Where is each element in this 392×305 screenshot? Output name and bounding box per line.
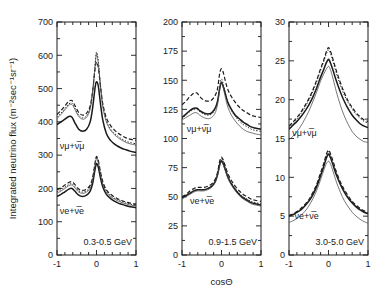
y-tick-label: 150 bbox=[163, 76, 178, 86]
annotation-numu-plus-antinumu: νμ+ν̅μ bbox=[60, 141, 85, 151]
annotation-numu-plus-antinumu: νμ+ν̅μ bbox=[292, 128, 317, 138]
x-tick-label: 0 bbox=[94, 259, 99, 269]
curve-numu-plus-antinumu-dashed bbox=[182, 69, 261, 118]
x-tick-label: 0 bbox=[219, 259, 224, 269]
y-tick-label: 400 bbox=[38, 117, 53, 127]
annotation-nue-plus-antinue: νe+ν̅e bbox=[60, 206, 84, 216]
y-tick-label: 125 bbox=[163, 105, 178, 115]
annotation-numu-plus-antinumu: νμ+ν̅μ bbox=[187, 124, 212, 134]
x-axis-title: cosΘ bbox=[210, 276, 232, 287]
x-tick-label: 1 bbox=[365, 259, 370, 269]
curves-group bbox=[57, 52, 136, 208]
y-tick-label: 100 bbox=[163, 134, 178, 144]
panel-left: 0100200300400500600700-101νμ+ν̅μνe+ν̅e0.… bbox=[38, 17, 139, 269]
y-tick-label: 5 bbox=[280, 211, 285, 221]
panel-right: 051015202530-101νμ+ν̅μνe+ν̅e3.0-5.0 GeV bbox=[275, 17, 371, 269]
x-tick-label: -1 bbox=[53, 259, 61, 269]
y-tick-label: 200 bbox=[163, 17, 178, 27]
panel-middle: 0255075100125150175200-101νμ+ν̅μνe+ν̅e0.… bbox=[163, 17, 264, 269]
energy-range-label: 0.3-0.5 GeV bbox=[83, 237, 132, 247]
plot-canvas: 0100200300400500600700-101νμ+ν̅μνe+ν̅e0.… bbox=[0, 0, 392, 305]
y-tick-label: 700 bbox=[38, 17, 53, 27]
y-tick-label: 75 bbox=[168, 163, 178, 173]
x-tick-label: 1 bbox=[258, 259, 263, 269]
energy-range-label: 3.0-5.0 GeV bbox=[315, 237, 364, 247]
curve-numu-plus-antinumu-dotted bbox=[57, 52, 136, 144]
y-axis-title: Integrated neutrino flux (m⁻²sec⁻¹sr⁻¹) bbox=[7, 58, 18, 219]
y-tick-label: 25 bbox=[275, 56, 285, 66]
x-tick-label: 0 bbox=[326, 259, 331, 269]
y-tick-label: 200 bbox=[38, 184, 53, 194]
curve-numu-plus-antinumu-thin bbox=[57, 54, 136, 145]
y-tick-label: 10 bbox=[275, 173, 285, 183]
axis-frame bbox=[182, 22, 261, 255]
y-tick-label: 175 bbox=[163, 46, 178, 56]
y-tick-label: 600 bbox=[38, 51, 53, 61]
x-tick-label: -1 bbox=[178, 259, 186, 269]
neutrino-flux-figure: 0100200300400500600700-101νμ+ν̅μνe+ν̅e0.… bbox=[0, 0, 392, 305]
curve-nue-plus-antinue-dashed bbox=[289, 150, 368, 215]
curve-nue-plus-antinue-solid bbox=[289, 154, 368, 216]
y-tick-label: 100 bbox=[38, 217, 53, 227]
annotation-nue-plus-antinue: νe+ν̅e bbox=[295, 211, 319, 221]
y-tick-label: 500 bbox=[38, 84, 53, 94]
y-tick-label: 15 bbox=[275, 134, 285, 144]
axis-frame bbox=[57, 22, 136, 255]
y-tick-label: 50 bbox=[168, 192, 178, 202]
curves-group bbox=[182, 69, 261, 206]
y-tick-label: 25 bbox=[168, 221, 178, 231]
y-tick-label: 20 bbox=[275, 95, 285, 105]
y-tick-label: 300 bbox=[38, 150, 53, 160]
curve-numu-plus-antinumu-solid bbox=[289, 59, 368, 129]
annotation-nue-plus-antinue: νe+ν̅e bbox=[190, 196, 214, 206]
x-tick-label: -1 bbox=[285, 259, 293, 269]
curve-numu-plus-antinumu-solid bbox=[182, 83, 261, 130]
curve-numu-plus-antinumu-dashed bbox=[57, 62, 136, 141]
x-tick-label: 1 bbox=[133, 259, 138, 269]
energy-range-label: 0.9-1.5 GeV bbox=[208, 237, 257, 247]
y-tick-label: 30 bbox=[275, 17, 285, 27]
